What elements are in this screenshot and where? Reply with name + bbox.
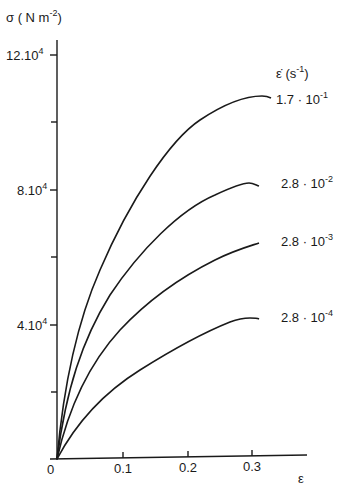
curve-2.8e-2: [57, 183, 259, 459]
stress-strain-chart: σ ( N m-2) 12.104 8.104 4.104 0 0.1 0.2 …: [0, 0, 340, 495]
series-label-2.8e-3: 2.8 · 10-3: [281, 232, 333, 249]
y-tick-label-4e4: 4.104: [17, 316, 47, 333]
y-tick-label-12e4: 12.104: [6, 46, 44, 63]
x-axis: [50, 455, 307, 459]
series-label-1.7e-1: 1.7 · 10-1: [276, 90, 328, 107]
curve-1.7e-1: [57, 96, 271, 459]
y-axis-title: σ ( N m-2): [6, 8, 62, 25]
series-label-2.8e-2: 2.8 · 10-2: [281, 174, 333, 191]
x-tick-label-0.1: 0.1: [114, 461, 132, 476]
x-tick-label-0.3: 0.3: [243, 459, 261, 474]
y-tick-label-8e4: 8.104: [17, 181, 47, 198]
curve-2.8e-3: [57, 243, 259, 459]
series-label-2.8e-4: 2.8 · 10-4: [281, 308, 333, 325]
x-tick-label-0.2: 0.2: [179, 460, 197, 475]
x-tick-label-0: 0: [47, 462, 54, 477]
legend-title: ε̇ (s-1): [276, 64, 309, 81]
x-axis-title: ε: [298, 471, 304, 486]
